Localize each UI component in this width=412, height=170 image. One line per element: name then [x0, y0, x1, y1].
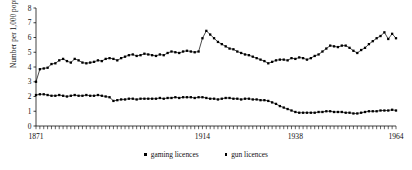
svg-text:5: 5: [28, 48, 32, 57]
chart-figure: Number per 1,000 population 012345678 18…: [0, 0, 412, 170]
svg-text:3: 3: [28, 77, 32, 86]
svg-text:1914: 1914: [195, 132, 210, 141]
svg-text:1871: 1871: [28, 132, 43, 141]
data-series-group: [35, 30, 397, 115]
svg-text:6: 6: [28, 33, 32, 42]
legend-label: gun licences: [231, 150, 268, 159]
svg-text:1: 1: [28, 107, 32, 116]
series-gaming-licences: [35, 30, 397, 83]
svg-text:7: 7: [28, 18, 32, 27]
legend-label: gaming licences: [151, 150, 199, 159]
svg-text:4: 4: [28, 63, 32, 72]
svg-text:1964: 1964: [388, 132, 403, 141]
svg-text:0: 0: [28, 122, 32, 131]
legend-marker-icon: [144, 153, 147, 156]
legend-item-gun-licences: gun licences: [225, 150, 268, 159]
x-axis-ticks: 1871191419381964: [28, 126, 403, 141]
series-gun-licences: [35, 93, 397, 114]
svg-text:8: 8: [28, 4, 32, 13]
chart-legend: gaming licences gun licences: [0, 150, 412, 159]
svg-text:2: 2: [28, 92, 32, 101]
legend-item-gaming-licences: gaming licences: [144, 150, 198, 159]
chart-plot-area: 012345678 1871191419381964: [0, 0, 412, 170]
y-axis-ticks: 012345678: [28, 4, 36, 131]
legend-marker-icon: [225, 153, 228, 156]
svg-text:1938: 1938: [288, 132, 303, 141]
